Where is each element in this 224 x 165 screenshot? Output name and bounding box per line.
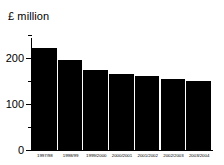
x-axis-line	[27, 150, 213, 151]
bar	[83, 70, 108, 150]
bar	[109, 74, 134, 150]
y-axis-title: £ million	[8, 10, 49, 23]
bar	[135, 76, 160, 150]
bar	[32, 48, 57, 150]
plot-area	[32, 38, 212, 150]
bar	[186, 81, 211, 150]
y-tick-major	[26, 150, 32, 151]
y-tick-minor	[28, 35, 32, 36]
y-tick-label: 0	[0, 145, 24, 156]
bar-chart: £ million 0100200 1997/981998/991999/200…	[0, 0, 224, 165]
y-tick-label: 100	[0, 99, 24, 110]
bar	[58, 60, 83, 150]
y-tick-label: 200	[0, 53, 24, 64]
x-axis-label: 2003/2004	[184, 153, 214, 159]
bar	[161, 79, 186, 150]
